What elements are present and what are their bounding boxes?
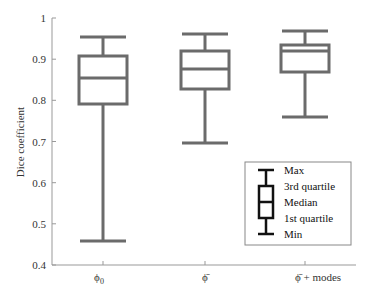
legend-min: Min [284,228,303,240]
svg-text:0.4: 0.4 [32,259,46,271]
legend-median: Median [284,196,318,208]
svg-text:0.8: 0.8 [32,94,46,106]
box-phi0 [79,37,127,241]
svg-text:ϕ̄ + modes: ϕ̄ + modes [295,271,341,283]
svg-text:0.9: 0.9 [32,53,46,65]
x-ticks [103,261,305,265]
legend-max: Max [284,164,305,176]
y-tick-labels: 0.4 0.5 0.6 0.7 0.8 0.9 1 [32,12,46,271]
legend-q3: 3rd quartile [284,180,335,192]
legend-q1: 1st quartile [284,212,333,224]
x-tick-labels: ϕ0 ϕ̄ ϕ̄ + modes [94,271,341,286]
svg-text:0.7: 0.7 [32,136,46,148]
y-ticks [52,18,56,265]
svg-text:ϕ̄: ϕ̄ [202,271,210,283]
box-phi-bar-modes [281,31,329,117]
legend: Max 3rd quartile Median 1st quartile Min [245,162,351,245]
box-phi-bar [181,34,229,143]
y-axis-label: Dice coefficient [14,107,26,177]
svg-text:ϕ0: ϕ0 [94,271,104,286]
svg-text:1: 1 [41,12,47,24]
box-plot: 0.4 0.5 0.6 0.7 0.8 0.9 1 Dice coefficie… [0,0,370,295]
svg-text:0.6: 0.6 [32,177,46,189]
svg-text:0.5: 0.5 [32,218,46,230]
